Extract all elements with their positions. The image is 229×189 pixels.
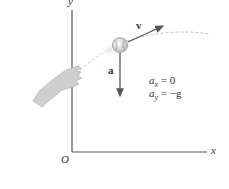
velocity-label: v⃗ (136, 20, 150, 31)
hand-icon (33, 66, 82, 107)
origin-label: O (61, 154, 69, 165)
trajectory (80, 32, 210, 70)
x-axis-label: x (211, 145, 216, 156)
equation-ay: ay = −g (149, 88, 181, 102)
projectile-diagram (0, 0, 229, 189)
y-axis-label: y (68, 0, 73, 7)
acceleration-label: a⃗ (108, 65, 122, 76)
ball-icon (113, 38, 128, 53)
